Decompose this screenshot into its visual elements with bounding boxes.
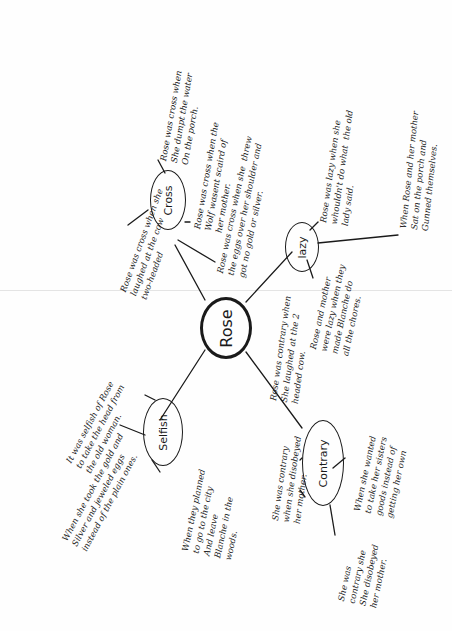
branch-node-lazy: lazy xyxy=(285,222,319,272)
branch-label: Selfish xyxy=(157,414,170,450)
mind-map-page: Rose Cross lazy Selfish Contrary Rose wa… xyxy=(0,0,452,631)
branch-label: Contrary xyxy=(317,439,330,487)
center-node-rose: Rose xyxy=(200,297,252,359)
center-node-label: Rose xyxy=(217,309,236,347)
branch-node-selfish: Selfish xyxy=(143,398,183,466)
branch-label: lazy xyxy=(296,236,309,258)
